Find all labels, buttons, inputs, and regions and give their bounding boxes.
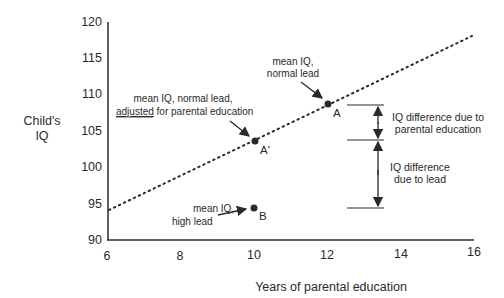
point-label-a: A — [333, 107, 341, 119]
annotation-a-prime: mean IQ, normal lead, — [134, 93, 233, 104]
annotation-a: mean IQ, — [272, 56, 313, 67]
point-a — [325, 101, 332, 108]
bracket-label-education: IQ difference due to — [392, 111, 484, 123]
y-axis-title: IQ — [35, 129, 48, 143]
point-b — [251, 205, 258, 212]
annotation-b: high lead — [172, 216, 213, 227]
bracket-label-lead: IQ difference — [390, 161, 450, 173]
x-tick: 10 — [247, 248, 261, 262]
arrow-a — [301, 82, 322, 98]
x-tick: 12 — [320, 248, 334, 262]
y-axis-title: Child's — [23, 114, 60, 128]
arrow-a-prime — [230, 121, 249, 136]
bracket-label-education: parental education — [395, 123, 482, 135]
x-axis-title: Years of parental education — [255, 280, 407, 294]
y-tick: 115 — [82, 51, 102, 65]
y-tick: 110 — [82, 87, 102, 101]
x-tick: 16 — [467, 245, 481, 259]
chart: 120 115 110 105 100 95 90 6 8 10 12 14 1… — [0, 0, 504, 298]
y-tick: 90 — [88, 233, 102, 247]
y-tick: 105 — [81, 124, 102, 138]
annotation-a-prime: adjusted for parental education — [116, 106, 253, 117]
bracket-label-lead: due to lead — [394, 173, 446, 185]
annotation-a: normal lead — [267, 68, 319, 79]
y-tick: 95 — [88, 197, 102, 211]
y-tick: 100 — [81, 160, 102, 174]
y-tick: 120 — [81, 15, 102, 29]
x-tick: 14 — [394, 247, 408, 261]
point-a-prime — [252, 138, 259, 145]
point-label-b: B — [259, 210, 267, 222]
x-tick: 6 — [104, 249, 111, 263]
x-tick: 8 — [177, 249, 184, 263]
point-label-a-prime: A' — [260, 144, 270, 156]
